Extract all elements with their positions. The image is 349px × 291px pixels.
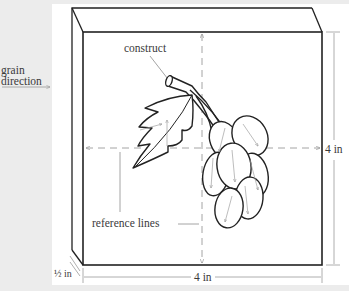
height-dimension-label: 4 in [325,144,343,155]
grain-direction-label: grain direction [1,65,42,87]
grape-carving [133,75,275,230]
dimension-lines [70,32,340,283]
reference-lines-label: reference lines [92,218,159,229]
grain-label-line2: direction [1,76,42,87]
thickness-dimension-label: ½ in [54,268,72,279]
construct-label: construct [124,43,166,54]
block-diagram [0,0,349,291]
width-dimension-label: 4 in [191,272,215,283]
